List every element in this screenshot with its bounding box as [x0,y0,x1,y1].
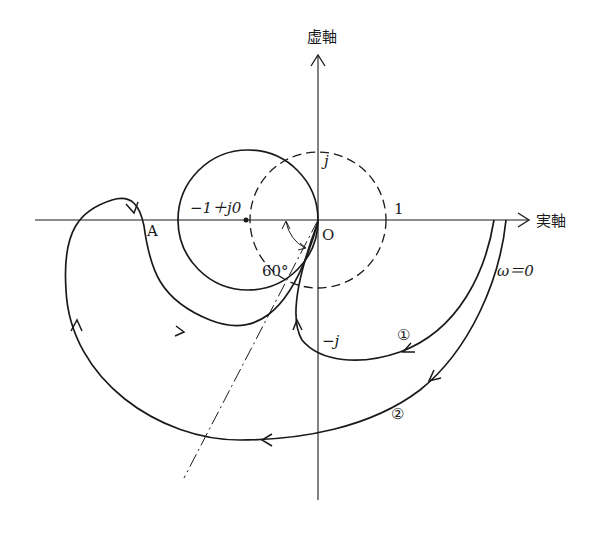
curve1-label: ① [397,326,410,344]
real-axis [35,213,529,227]
minus-j-label: −j [322,332,340,350]
real-axis-label: 実軸 [536,212,566,230]
nyquist-diagram: 虚軸 実軸 O −1＋j0 j −j 1 A 60° ω＝0 ① ② [0,0,597,538]
imag-axis-label: 虚軸 [307,28,337,46]
critical-point-marker [244,218,249,223]
angle-label: 60° [262,262,289,280]
origin-label: O [322,226,334,244]
critical-point-label: −1＋j0 [190,199,242,217]
one-label: 1 [394,200,404,218]
angle-arc [282,221,306,250]
point-a-label: A [146,222,158,240]
plus-j-label: j [321,152,329,170]
curve-2 [65,198,506,446]
caption-fragment [150,528,510,538]
curve2-label: ② [391,405,404,423]
omega-zero-label: ω＝0 [497,262,534,280]
